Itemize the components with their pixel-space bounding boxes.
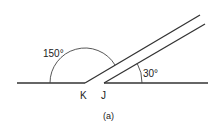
angle-label-150: 150°	[43, 48, 64, 59]
angle-diagram: 150° 30° K J (a)	[0, 0, 221, 129]
angle-arc-30	[137, 63, 142, 83]
angle-label-30: 30°	[143, 68, 158, 79]
figure-caption: (a)	[103, 111, 114, 121]
point-label-k: K	[80, 90, 87, 101]
point-label-j: J	[101, 90, 106, 101]
